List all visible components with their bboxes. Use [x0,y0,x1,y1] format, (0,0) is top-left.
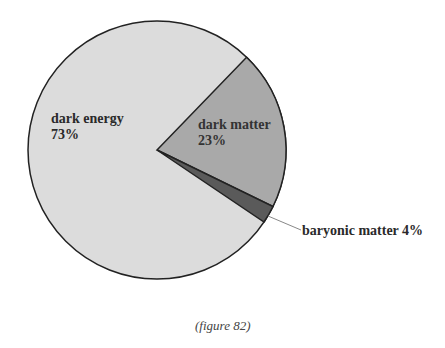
label-dark-matter-name: dark matter [198,117,271,133]
figure-caption: (figure 82) [195,318,250,334]
label-dark-energy: dark energy 73% [51,111,124,143]
leader-line [268,216,301,230]
pie-chart [0,0,445,348]
label-baryonic-matter: baryonic matter 4% [302,223,423,239]
label-dark-matter: dark matter 23% [198,117,271,149]
label-dark-energy-name: dark energy [51,111,124,127]
label-dark-energy-value: 73% [51,127,124,143]
label-dark-matter-value: 23% [198,133,271,149]
